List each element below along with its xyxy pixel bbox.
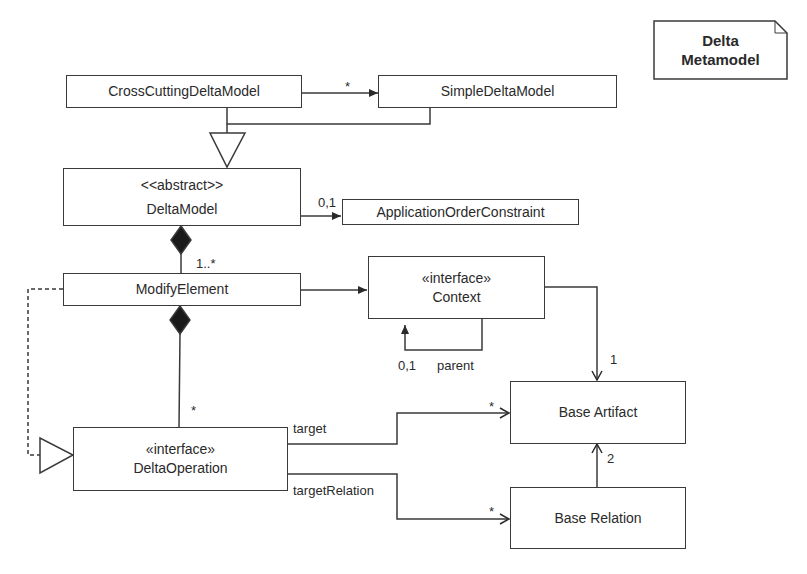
class-name: Context — [432, 288, 480, 307]
class-base-artifact[interactable]: Base Artifact — [510, 381, 686, 444]
note-line-1: Delta — [702, 31, 739, 51]
role-context-parent: parent — [437, 358, 474, 373]
mult-context-parent: 0,1 — [398, 358, 416, 373]
class-name: CrossCuttingDeltaModel — [108, 82, 260, 101]
class-name: DeltaModel — [147, 200, 218, 219]
class-application-order-constraint[interactable]: ApplicationOrderConstraint — [342, 199, 579, 225]
class-name: Base Relation — [554, 509, 641, 528]
role-target-relation: targetRelation — [293, 483, 374, 498]
class-delta-model[interactable]: <<abstract>> DeltaModel — [63, 168, 301, 226]
composition-diamond-delta — [171, 226, 191, 254]
class-base-relation[interactable]: Base Relation — [510, 487, 686, 549]
mult-delta-to-modify: 1..* — [196, 256, 216, 271]
class-name: SimpleDeltaModel — [441, 82, 555, 101]
class-delta-operation[interactable]: «interface» DeltaOperation — [73, 427, 288, 491]
composition-diamond-modify — [170, 306, 190, 334]
role-target: target — [293, 421, 326, 436]
generalization-line — [227, 107, 430, 124]
mult-delta-to-aoc: 0,1 — [318, 195, 336, 210]
class-stereotype: <<abstract>> — [141, 176, 224, 195]
note-line-2: Metamodel — [681, 50, 759, 70]
class-cross-cutting-delta-model[interactable]: CrossCuttingDeltaModel — [66, 75, 302, 108]
class-context[interactable]: «interface» Context — [368, 256, 545, 319]
mult-target-relation: * — [489, 504, 494, 519]
realization-line — [28, 289, 63, 455]
assoc-context-to-artifact — [544, 287, 597, 380]
mult-modify-to-op: * — [191, 403, 196, 418]
class-name: ModifyElement — [136, 280, 229, 299]
mult-relation-to-artifact: 2 — [607, 451, 614, 466]
class-name: Base Artifact — [559, 403, 638, 422]
realization-triangle — [40, 438, 73, 473]
class-simple-delta-model[interactable]: SimpleDeltaModel — [378, 75, 617, 108]
mult-target: * — [489, 399, 494, 414]
class-name: ApplicationOrderConstraint — [376, 203, 544, 222]
mult-cross-to-simple: * — [345, 79, 350, 94]
mult-context-to-artifact: 1 — [610, 352, 617, 367]
diagram-title-note: Delta Metamodel — [653, 20, 788, 80]
context-parent-loop — [405, 318, 482, 350]
class-name: DeltaOperation — [133, 459, 227, 478]
generalization-triangle — [210, 133, 245, 167]
class-stereotype: «interface» — [422, 269, 491, 288]
class-stereotype: «interface» — [146, 440, 215, 459]
class-modify-element[interactable]: ModifyElement — [63, 273, 301, 306]
